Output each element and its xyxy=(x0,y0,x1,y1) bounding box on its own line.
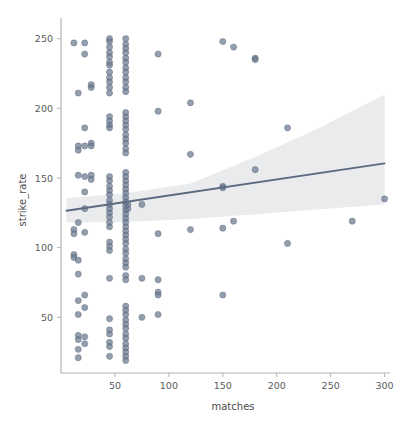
data-point xyxy=(82,292,88,298)
data-point xyxy=(106,316,112,322)
data-point xyxy=(71,231,77,237)
data-point xyxy=(230,218,236,224)
data-point xyxy=(82,174,88,180)
data-point xyxy=(220,292,226,298)
data-point xyxy=(82,341,88,347)
data-point xyxy=(106,353,112,359)
data-point xyxy=(75,311,81,317)
data-point xyxy=(123,89,129,95)
data-point xyxy=(75,257,81,263)
scatter-plot-figure: 50100150200250300 50100150200250 matches… xyxy=(0,0,418,424)
x-axis-title: matches xyxy=(212,401,255,412)
data-point xyxy=(82,125,88,131)
data-point xyxy=(75,355,81,361)
data-point xyxy=(349,218,355,224)
data-point xyxy=(155,277,161,283)
data-point xyxy=(106,275,112,281)
data-point xyxy=(252,57,258,63)
data-point xyxy=(82,229,88,235)
data-point xyxy=(123,264,129,270)
data-point xyxy=(382,196,388,202)
data-point xyxy=(155,311,161,317)
plot-canvas: 50100150200250300 50100150200250 matches… xyxy=(0,0,418,424)
data-point xyxy=(187,100,193,106)
x-tick-label: 100 xyxy=(160,380,178,391)
data-point xyxy=(106,343,112,349)
data-point xyxy=(284,125,290,131)
data-point xyxy=(71,40,77,46)
data-point xyxy=(82,40,88,46)
y-axis-title: strike_rate xyxy=(17,174,29,227)
data-point xyxy=(106,90,112,96)
data-point xyxy=(155,231,161,237)
data-point xyxy=(139,314,145,320)
data-point xyxy=(88,84,94,90)
data-point xyxy=(252,167,258,173)
data-point xyxy=(75,346,81,352)
data-point xyxy=(155,292,161,298)
data-point xyxy=(82,143,88,149)
data-point xyxy=(123,150,129,156)
data-point xyxy=(155,108,161,114)
data-point xyxy=(82,304,88,310)
data-point xyxy=(284,240,290,246)
data-point xyxy=(125,206,131,212)
data-point xyxy=(82,334,88,340)
y-tick-label: 250 xyxy=(35,33,53,44)
y-tick-label: 150 xyxy=(35,173,53,184)
data-point xyxy=(75,219,81,225)
data-point xyxy=(75,271,81,277)
data-point xyxy=(75,297,81,303)
data-point xyxy=(88,143,94,149)
data-point xyxy=(155,51,161,57)
x-tick-label: 150 xyxy=(214,380,232,391)
data-point xyxy=(220,38,226,44)
data-point xyxy=(82,51,88,57)
x-tick-label: 300 xyxy=(376,380,394,391)
y-tick-label: 100 xyxy=(35,242,53,253)
data-point xyxy=(88,176,94,182)
data-point xyxy=(139,275,145,281)
y-tick-label: 50 xyxy=(41,312,53,323)
data-point xyxy=(187,151,193,157)
data-point xyxy=(123,357,129,363)
data-point xyxy=(106,247,112,253)
data-point xyxy=(230,44,236,50)
data-point xyxy=(106,224,112,230)
data-point xyxy=(75,143,81,149)
data-point xyxy=(75,336,81,342)
x-tick-label: 200 xyxy=(268,380,286,391)
data-point xyxy=(75,172,81,178)
data-point xyxy=(139,201,145,207)
data-point xyxy=(123,277,129,283)
data-point xyxy=(82,189,88,195)
x-tick-label: 50 xyxy=(109,380,121,391)
data-point xyxy=(220,225,226,231)
data-point xyxy=(75,90,81,96)
data-point xyxy=(187,226,193,232)
data-point xyxy=(106,62,112,68)
y-tick-label: 200 xyxy=(35,103,53,114)
data-point xyxy=(106,125,112,131)
x-tick-label: 250 xyxy=(322,380,340,391)
data-point xyxy=(106,331,112,337)
